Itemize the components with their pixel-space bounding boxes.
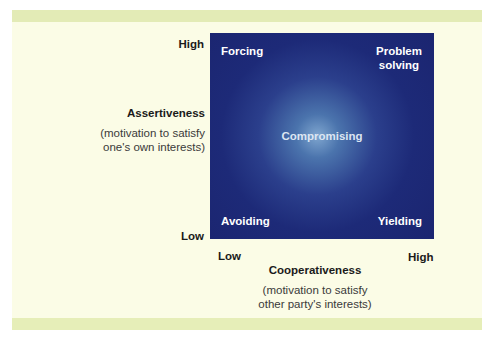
x-axis-subtitle-line1: (motivation to satisfy [215, 283, 415, 297]
x-axis-low-label: Low [218, 250, 241, 262]
x-axis-high-label: High [408, 251, 434, 263]
diagram-panel: High Low Assertiveness (motivation to sa… [12, 10, 482, 330]
y-axis-high-label: High [162, 38, 204, 50]
y-axis-low-label: Low [162, 230, 204, 242]
quadrant-problem-solving-line2: solving [376, 58, 422, 72]
conflict-styles-matrix: Forcing Problem solving Compromising Avo… [210, 33, 434, 239]
quadrant-avoiding: Avoiding [221, 214, 270, 228]
quadrant-problem-solving-line1: Problem [376, 44, 422, 58]
x-axis-subtitle-line2: other party's interests) [215, 297, 415, 311]
y-axis-subtitle-line1: (motivation to satisfy [50, 126, 205, 140]
x-axis-title: Cooperativeness [235, 264, 395, 276]
x-axis-subtitle: (motivation to satisfy other party's int… [215, 283, 415, 311]
quadrant-problem-solving: Problem solving [376, 44, 422, 72]
bottom-accent-band [12, 318, 482, 330]
y-axis-subtitle-line2: one's own interests) [50, 140, 205, 154]
y-axis-title: Assertiveness [50, 107, 205, 119]
quadrant-forcing: Forcing [221, 44, 263, 58]
top-accent-band [12, 10, 482, 22]
center-compromising: Compromising [210, 129, 434, 143]
quadrant-yielding: Yielding [378, 214, 422, 228]
y-axis-subtitle: (motivation to satisfy one's own interes… [50, 126, 205, 154]
